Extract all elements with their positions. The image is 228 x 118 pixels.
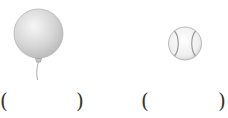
balloon-icon: [14, 9, 63, 80]
illustration-canvas: [0, 0, 228, 118]
baseball-icon: [169, 27, 202, 60]
balloon-answer-open-paren: (: [0, 91, 8, 111]
balloon-answer-close-paren: ): [76, 91, 84, 111]
baseball-answer-close-paren: ): [218, 91, 226, 111]
baseball-answer-open-paren: (: [141, 91, 149, 111]
